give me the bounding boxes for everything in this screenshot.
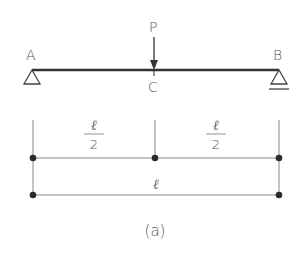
arrow-down-icon xyxy=(150,60,158,70)
svg-text:2: 2 xyxy=(212,137,220,152)
figure-caption: (a) xyxy=(145,222,166,240)
svg-text:ℓ: ℓ xyxy=(91,117,97,133)
beam-diagram: A B P C ℓ 2 ℓ 2 ℓ (a) xyxy=(0,0,307,260)
support-b-label: B xyxy=(273,47,282,63)
load-point-label: C xyxy=(148,79,158,95)
dimension-label-total: ℓ xyxy=(153,176,159,192)
dimension-dot xyxy=(276,155,283,162)
dimension-label-left: ℓ 2 xyxy=(84,117,104,152)
dimension-dot xyxy=(30,192,37,199)
dimension-dot xyxy=(276,192,283,199)
support-a-label: A xyxy=(26,47,36,63)
dimension-dot xyxy=(30,155,37,162)
dimension-label-right: ℓ 2 xyxy=(206,117,226,152)
load-label: P xyxy=(149,19,157,35)
dimension-dot xyxy=(152,155,159,162)
pin-support-icon xyxy=(24,70,40,84)
svg-text:2: 2 xyxy=(90,137,98,152)
svg-text:ℓ: ℓ xyxy=(213,117,219,133)
roller-support-icon xyxy=(271,70,287,84)
